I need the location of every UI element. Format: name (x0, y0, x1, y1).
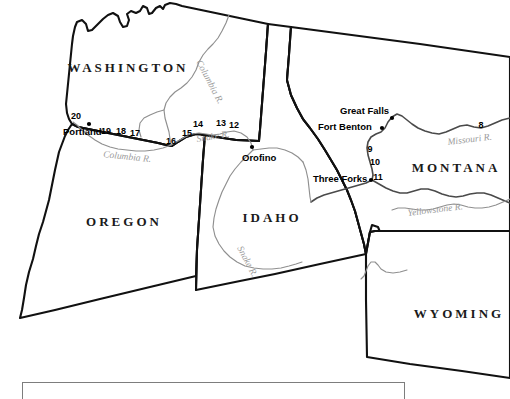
city-label-portland: Portland (63, 126, 102, 137)
city-label-great-falls: Great Falls (340, 105, 389, 116)
state-shape-wyoming (366, 231, 510, 378)
route-marker-14: 14 (193, 119, 203, 129)
route-marker-8: 8 (478, 120, 483, 130)
route-marker-12: 12 (229, 120, 239, 130)
city-label-fort-benton: Fort Benton (318, 121, 372, 132)
route-marker-10: 10 (370, 157, 380, 167)
map-container: WASHINGTON OREGON IDAHO MONTANA WYOMING … (0, 0, 510, 399)
state-label-idaho: IDAHO (242, 210, 301, 225)
route-marker-16: 16 (166, 136, 176, 146)
route-marker-11: 11 (373, 172, 383, 182)
route-marker-17: 17 (130, 128, 140, 138)
city-label-orofino: Orofino (242, 152, 276, 163)
city-label-three-forks: Three Forks (313, 173, 367, 184)
route-marker-9: 9 (367, 144, 372, 154)
city-dot-great-falls (390, 116, 394, 120)
state-label-washington: WASHINGTON (68, 60, 189, 75)
map-svg: WASHINGTON OREGON IDAHO MONTANA WYOMING … (0, 0, 510, 399)
state-label-wyoming: WYOMING (414, 306, 504, 321)
route-marker-19: 19 (101, 126, 111, 136)
state-label-oregon: OREGON (86, 214, 162, 229)
city-dot-fort-benton (380, 126, 384, 130)
state-label-montana: MONTANA (412, 160, 501, 175)
legend-box (22, 382, 405, 399)
route-marker-20: 20 (71, 111, 81, 121)
route-marker-18: 18 (116, 126, 126, 136)
city-dot-orofino (250, 145, 254, 149)
route-marker-15: 15 (182, 128, 192, 138)
route-marker-13: 13 (216, 118, 226, 128)
